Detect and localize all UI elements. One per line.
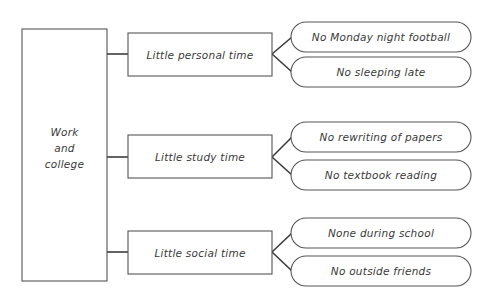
root-node-box[interactable] — [22, 29, 107, 281]
diagram-canvas: Work and college Little personal time Li… — [0, 0, 493, 303]
leaf-node-3-1[interactable]: None during school — [291, 218, 471, 248]
connector-branch-2-leaf-2 — [272, 157, 292, 175]
root-node-label-line-2: and — [54, 142, 75, 154]
root-node-label-line-3: college — [45, 158, 84, 170]
leaf-node-3-2-label: No outside friends — [331, 265, 432, 277]
leaf-node-1-1-label: No Monday night football — [312, 31, 450, 43]
branch-node-2-label: Little study time — [155, 151, 245, 163]
root-node[interactable]: Work and college — [22, 29, 107, 281]
leaf-node-3-1-label: None during school — [328, 227, 434, 239]
connector-branch-3-leaf-1 — [272, 233, 292, 252]
connector-branch-1-leaf-2 — [272, 54, 292, 72]
leaf-node-1-1[interactable]: No Monday night football — [291, 22, 471, 52]
leaf-node-3-2[interactable]: No outside friends — [291, 256, 471, 286]
root-node-label-line-1: Work — [50, 126, 79, 138]
leaf-node-2-1-label: No rewriting of papers — [320, 131, 443, 143]
connector-branch-3-leaf-2 — [272, 252, 292, 271]
leaf-node-1-2[interactable]: No sleeping late — [291, 57, 471, 87]
branch-node-3-label: Little social time — [154, 247, 245, 259]
branch-to-leaf-connectors — [272, 37, 292, 271]
tree-diagram: Work and college Little personal time Li… — [0, 0, 493, 303]
leaf-node-2-2[interactable]: No textbook reading — [291, 160, 471, 190]
branch-node-2[interactable]: Little study time — [128, 135, 272, 178]
leaf-node-2-2-label: No textbook reading — [325, 169, 437, 181]
connector-branch-2-leaf-1 — [272, 137, 292, 157]
leaf-node-1-2-label: No sleeping late — [336, 66, 425, 78]
branch-node-3[interactable]: Little social time — [128, 231, 272, 274]
branch-node-1-label: Little personal time — [146, 49, 253, 61]
leaf-node-2-1[interactable]: No rewriting of papers — [291, 122, 471, 152]
root-to-branch-connectors — [107, 54, 128, 252]
branch-node-1[interactable]: Little personal time — [128, 33, 272, 76]
connector-branch-1-leaf-1 — [272, 37, 292, 54]
